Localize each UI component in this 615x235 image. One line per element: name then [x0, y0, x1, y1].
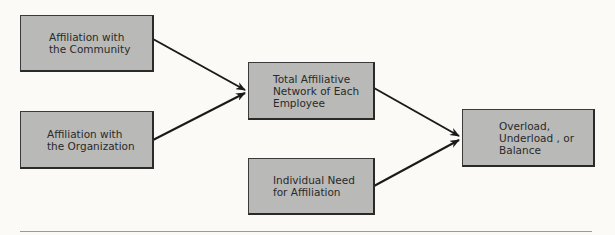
node-organization: Affiliation with the Organization: [20, 111, 154, 169]
arrow-need-to-outcome: [374, 140, 459, 186]
node-individual-need: Individual Need for Affiliation: [248, 158, 375, 215]
arrow-community-to-total: [153, 39, 245, 90]
node-total-network-label: Total Affiliative Network of Each Employ…: [273, 73, 359, 109]
bottom-rule-divider: [20, 231, 592, 232]
node-community-label: Affiliation with the Community: [49, 31, 130, 55]
node-organization-label: Affiliation with the Organization: [47, 128, 135, 152]
node-community: Affiliation with the Community: [20, 15, 154, 72]
arrow-total-to-outcome: [374, 88, 459, 136]
node-outcome-label: Overload, Underload , or Balance: [499, 120, 574, 156]
node-individual-need-label: Individual Need for Affiliation: [273, 174, 355, 198]
node-total-network: Total Affiliative Network of Each Employ…: [248, 62, 375, 120]
node-outcome: Overload, Underload , or Balance: [462, 109, 595, 167]
arrow-organization-to-total: [153, 93, 245, 140]
